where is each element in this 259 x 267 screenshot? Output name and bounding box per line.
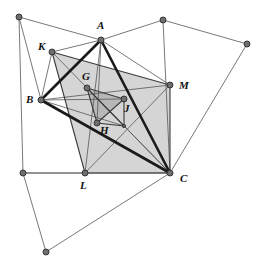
edge-P1-P4 [19,17,23,173]
vertex-node-l[interactable] [82,170,88,176]
edge-P4-P5 [23,173,46,252]
vertex-label-j: J [123,102,130,114]
geometry-figure: ABCKLMGHJ [0,0,259,267]
vertex-node-a[interactable] [98,37,104,43]
vertex-node-p5[interactable] [43,249,49,255]
vertex-node-g[interactable] [84,85,90,91]
edge-P2-P3 [163,20,247,44]
vertex-label-g: G [82,70,90,82]
vertex-node-p4[interactable] [20,170,26,176]
vertex-node-m[interactable] [167,82,173,88]
vertex-label-b: B [25,93,33,105]
vertex-node-k[interactable] [49,49,55,55]
vertex-node-b[interactable] [38,97,44,103]
vertex-label-c: C [180,172,188,184]
edge-P3-C [170,44,247,173]
edge-P1-A [19,17,101,40]
vertex-node-q1[interactable] [122,124,125,127]
diagram-canvas: ABCKLMGHJ [0,0,259,267]
vertex-node-p3[interactable] [244,41,250,47]
edge-P1-B [19,17,41,100]
vertex-label-l: L [79,179,87,191]
vertex-node-c[interactable] [167,170,173,176]
vertex-label-h: H [99,124,109,136]
edge-P5-C [46,173,170,252]
vertex-label-m: M [178,79,190,91]
vertex-label-k: K [37,40,46,52]
edge-A-P2 [101,20,163,40]
vertex-node-p2[interactable] [160,17,166,23]
vertex-node-p1[interactable] [16,14,22,20]
vertex-label-a: A [96,19,104,31]
